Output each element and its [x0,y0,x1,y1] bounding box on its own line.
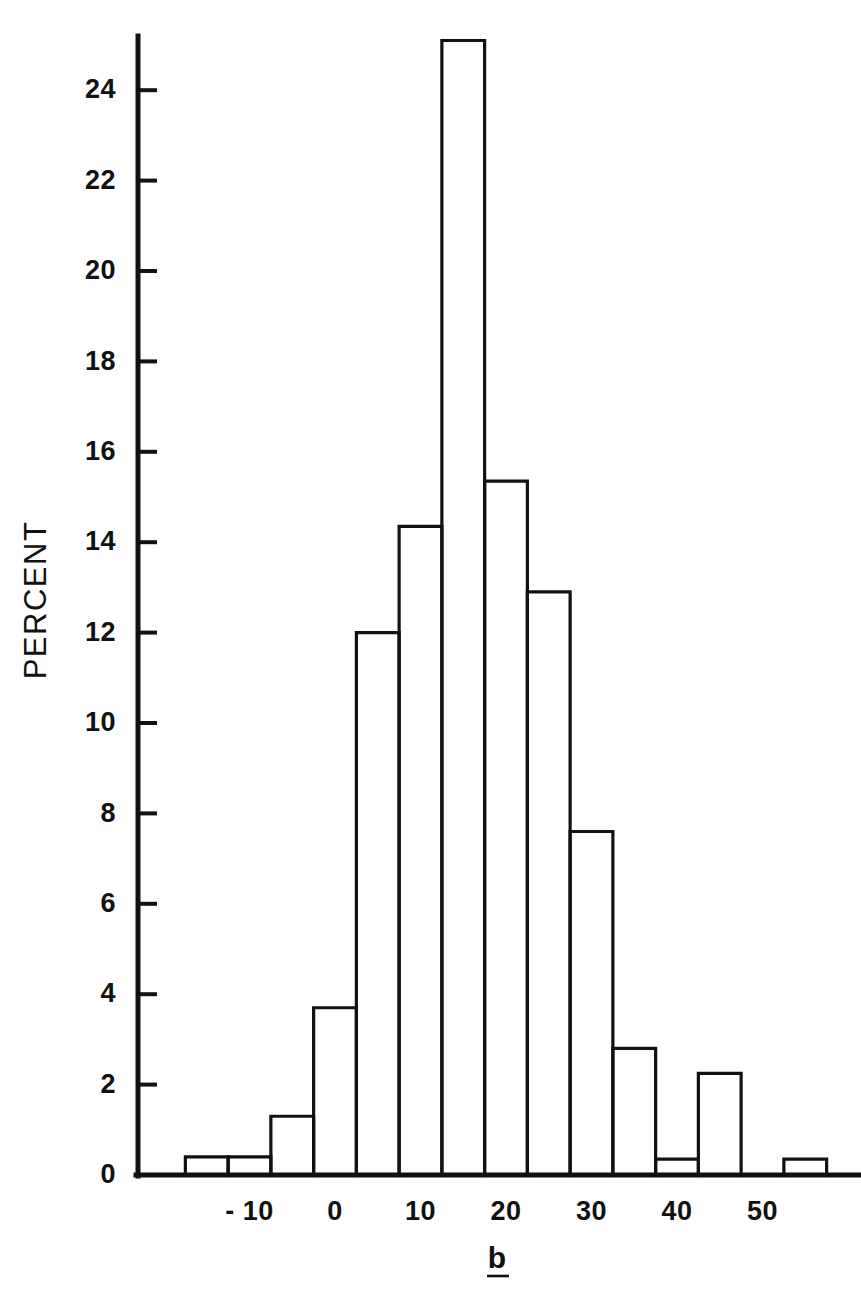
y-axis-title: PERCENT [18,521,53,680]
x-tick-label: - 10 [225,1196,274,1226]
x-tick-label: 10 [405,1196,436,1226]
histogram-bar [442,40,485,1175]
y-tick-label: 10 [85,707,116,737]
bar-group [185,40,826,1175]
histogram-bar [399,526,442,1175]
histogram-bar [613,1048,656,1175]
histogram-bar [356,633,399,1175]
histogram-bar [228,1157,271,1175]
y-tick-label: 18 [85,346,116,376]
x-tick-label: 20 [490,1196,521,1226]
x-tick-group: - 1001020304050 [225,1196,778,1226]
y-tick-label: 2 [100,1069,116,1099]
x-axis-title: b [488,1241,506,1274]
y-tick-label: 6 [100,888,116,918]
y-tick-label: 14 [85,526,116,556]
histogram-bar [185,1157,228,1175]
y-tick-label: 12 [85,617,116,647]
histogram-bar [485,481,528,1175]
y-tick-label: 4 [100,978,116,1008]
y-tick-label: 20 [85,255,116,285]
x-tick-label: 40 [661,1196,692,1226]
histogram-bar [314,1008,357,1175]
y-tick-label: 22 [85,165,116,195]
histogram-figure: PERCENT 024681012141618202224 - 10010203… [0,0,861,1299]
x-tick-label: 0 [327,1196,343,1226]
histogram-bar [271,1116,314,1175]
x-tick-label: 30 [576,1196,607,1226]
x-tick-label: 50 [747,1196,778,1226]
histogram-bar [698,1073,741,1175]
y-tick-label: 0 [100,1159,116,1189]
histogram-plot: PERCENT 024681012141618202224 - 10010203… [0,0,861,1299]
y-tick-label: 8 [100,798,116,828]
y-tick-group: 024681012141618202224 [85,74,157,1189]
histogram-bar [527,592,570,1175]
y-tick-label: 24 [85,74,116,104]
y-tick-label: 16 [85,436,116,466]
histogram-bar [570,831,613,1175]
